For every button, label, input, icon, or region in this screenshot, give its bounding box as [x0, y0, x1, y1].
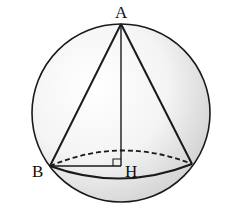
- cone-in-sphere-diagram: A B H: [0, 0, 228, 207]
- label-B: B: [32, 162, 43, 181]
- label-H: H: [125, 162, 137, 181]
- label-A: A: [115, 3, 128, 22]
